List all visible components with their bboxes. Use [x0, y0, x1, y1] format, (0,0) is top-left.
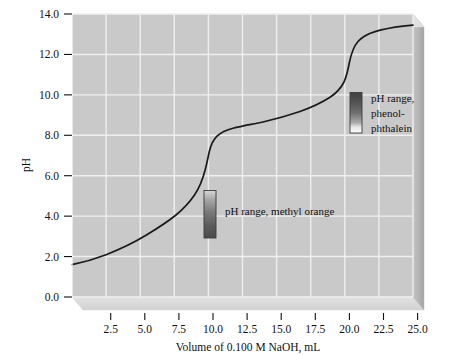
- annotation-phenolphthalein-line1: pH range,: [371, 92, 415, 104]
- x-tick-label: 12.5: [237, 323, 257, 335]
- y-tick-label: 0.0: [45, 291, 60, 303]
- y-tick-label: 10.0: [39, 89, 59, 101]
- y-tick-label: 14.0: [39, 8, 59, 20]
- x-axis-ticks: [111, 313, 418, 320]
- x-tick-label: 17.5: [305, 323, 325, 335]
- plot-base-panel: [72, 297, 424, 310]
- titration-chart-figure: 14.0 12.0 10.0 8.0 6.0 4.0 2.0 0.0 pH 2.: [0, 0, 460, 355]
- x-tick-label: 15.0: [271, 323, 291, 335]
- x-tick-label: 25.0: [408, 323, 428, 335]
- x-tick-label: 22.5: [373, 323, 393, 335]
- y-tick-label: 6.0: [45, 170, 60, 182]
- y-tick-label: 12.0: [39, 48, 59, 60]
- x-tick-label: 2.5: [104, 323, 119, 335]
- annotation-phenolphthalein-line2: phenol-: [371, 107, 405, 119]
- chart-svg: 14.0 12.0 10.0 8.0 6.0 4.0 2.0 0.0 pH 2.: [0, 0, 460, 355]
- methyl-orange-range-bar: [204, 191, 216, 239]
- plot-side-panel: [413, 14, 424, 310]
- y-axis-title: pH: [20, 158, 33, 172]
- y-tick-label: 4.0: [45, 210, 60, 222]
- y-tick-label: 8.0: [45, 129, 60, 141]
- x-tick-label: 7.5: [172, 323, 187, 335]
- y-tick-labels: 14.0 12.0 10.0 8.0 6.0 4.0 2.0 0.0: [39, 8, 59, 303]
- annotation-methyl-orange-label: pH range, methyl orange: [225, 205, 334, 217]
- x-tick-label: 10.0: [203, 323, 223, 335]
- x-axis-title: Volume of 0.100 M NaOH, mL: [176, 341, 321, 354]
- x-tick-label: 5.0: [138, 323, 153, 335]
- x-tick-label: 20.0: [339, 323, 359, 335]
- y-axis: [64, 14, 72, 297]
- annotation-phenolphthalein-line3: phthalein: [371, 122, 412, 134]
- x-tick-labels: 2.5 5.0 7.5 10.0 12.5 15.0 17.5 20.0 22.…: [104, 323, 428, 335]
- y-tick-label: 2.0: [45, 251, 60, 263]
- phenolphthalein-range-bar: [350, 93, 362, 134]
